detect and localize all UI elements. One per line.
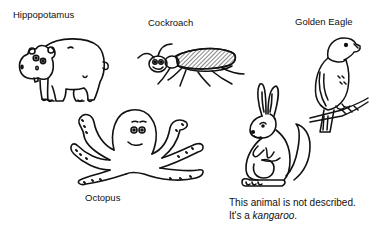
hippopotamus-label: Hippopotamus xyxy=(13,9,74,20)
kangaroo-drawing xyxy=(232,80,312,188)
note-line-2-prefix: It's a xyxy=(229,210,253,221)
note-animal-name: kangaroo xyxy=(253,210,295,221)
note-line-2: It's a kangaroo. xyxy=(229,209,356,222)
octopus-label: Octopus xyxy=(85,192,120,203)
note-line-1: This animal is not described. xyxy=(229,196,356,209)
octopus-drawing xyxy=(70,104,210,188)
hippopotamus-drawing xyxy=(8,34,113,106)
golden-eagle-label: Golden Eagle xyxy=(295,16,353,27)
kangaroo-note: This animal is not described. It's a kan… xyxy=(229,196,356,222)
cockroach-label: Cockroach xyxy=(148,17,193,28)
golden-eagle-drawing xyxy=(308,36,370,136)
note-line-2-suffix: . xyxy=(294,210,297,221)
